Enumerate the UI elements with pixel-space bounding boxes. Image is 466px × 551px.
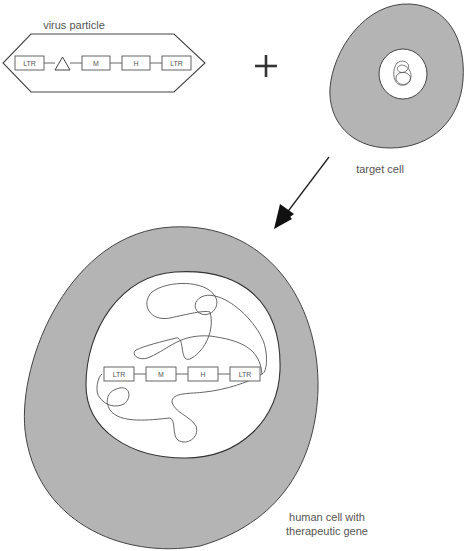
virus-segment-ltr-left: LTR bbox=[15, 56, 44, 70]
human-cell: LTR M H LTR human cell with therapeutic … bbox=[24, 227, 368, 549]
virus-particle: virus particle LTR M H LTR bbox=[3, 19, 205, 92]
plus-icon bbox=[255, 55, 277, 77]
gene-segment-ltr-right: LTR bbox=[230, 367, 260, 381]
virus-segment-h: H bbox=[122, 56, 150, 70]
svg-text:M: M bbox=[93, 60, 99, 67]
target-cell: target cell bbox=[330, 4, 463, 175]
svg-text:LTR: LTR bbox=[23, 60, 36, 67]
virus-segment-ltr-right: LTR bbox=[162, 56, 191, 70]
svg-text:H: H bbox=[133, 60, 138, 67]
target-cell-label: target cell bbox=[356, 163, 404, 175]
gene-segment-ltr-left: LTR bbox=[104, 367, 134, 381]
human-cell-label-line2: therapeutic gene bbox=[286, 525, 368, 537]
virus-segment-m: M bbox=[82, 56, 110, 70]
svg-text:H: H bbox=[200, 371, 205, 378]
gene-segment-m: M bbox=[146, 367, 176, 381]
svg-text:LTR: LTR bbox=[113, 371, 126, 378]
arrow-icon bbox=[274, 157, 329, 229]
svg-text:LTR: LTR bbox=[170, 60, 183, 67]
svg-text:M: M bbox=[158, 371, 164, 378]
virus-particle-label: virus particle bbox=[43, 19, 105, 31]
target-cell-nucleus bbox=[379, 49, 427, 99]
human-cell-label-line1: human cell with bbox=[289, 511, 365, 523]
svg-text:LTR: LTR bbox=[239, 371, 252, 378]
gene-segment-h: H bbox=[188, 367, 218, 381]
